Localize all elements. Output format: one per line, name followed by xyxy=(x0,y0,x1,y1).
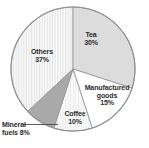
slice-label-manufactured-goods-line1: Manufactured xyxy=(79,84,135,92)
slice-label-tea: Tea 30% xyxy=(74,31,108,46)
slice-label-manufactured-goods-percent: 15% xyxy=(79,99,135,107)
slice-label-coffee-name: Coffee xyxy=(60,110,90,118)
slice-label-tea-name: Tea xyxy=(74,31,108,39)
slice-label-manufactured-goods: Manufactured goods 15% xyxy=(79,84,135,107)
slice-label-mineral-fuels: Mineral fuels 8% xyxy=(2,121,46,136)
pie-chart-figure: Tea 30% Manufactured goods 15% Coffee 10… xyxy=(0,0,149,148)
slice-label-others-percent: 37% xyxy=(24,56,60,64)
slice-label-tea-percent: 30% xyxy=(74,39,108,47)
slice-label-coffee: Coffee 10% xyxy=(60,110,90,125)
slice-label-coffee-percent: 10% xyxy=(60,118,90,126)
slice-label-others-name: Others xyxy=(24,48,60,56)
slice-label-mineral-fuels-line1: Mineral xyxy=(2,121,46,129)
slice-label-mineral-fuels-line2: fuels 8% xyxy=(2,129,46,137)
slice-label-manufactured-goods-line2: goods xyxy=(79,92,135,100)
slice-label-others: Others 37% xyxy=(24,48,60,63)
